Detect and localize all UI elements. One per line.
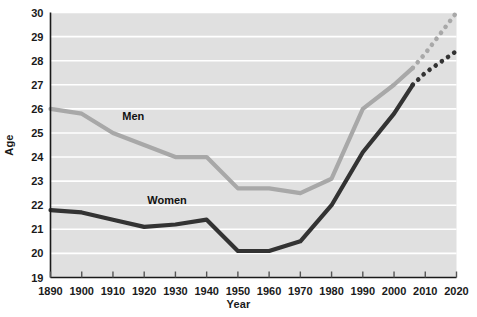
svg-text:1940: 1940 bbox=[194, 285, 218, 297]
svg-text:2010: 2010 bbox=[413, 285, 437, 297]
svg-text:24: 24 bbox=[31, 151, 44, 163]
svg-text:2000: 2000 bbox=[382, 285, 406, 297]
svg-text:28: 28 bbox=[31, 55, 43, 67]
svg-text:1950: 1950 bbox=[226, 285, 250, 297]
svg-text:1910: 1910 bbox=[101, 285, 125, 297]
svg-text:1900: 1900 bbox=[69, 285, 93, 297]
line-chart-figure: 192021222324252627282930 189019001910192… bbox=[0, 0, 477, 317]
svg-text:1970: 1970 bbox=[288, 285, 312, 297]
y-axis-title: Age bbox=[3, 125, 15, 165]
x-axis-tick-labels: 1890190019101920193019401950196019701980… bbox=[38, 285, 468, 297]
svg-text:21: 21 bbox=[31, 223, 43, 235]
svg-text:26: 26 bbox=[31, 103, 43, 115]
svg-text:1920: 1920 bbox=[132, 285, 156, 297]
svg-text:22: 22 bbox=[31, 199, 43, 211]
svg-text:25: 25 bbox=[31, 127, 43, 139]
svg-text:1890: 1890 bbox=[38, 285, 62, 297]
svg-text:1990: 1990 bbox=[351, 285, 375, 297]
svg-text:2020: 2020 bbox=[444, 285, 468, 297]
svg-text:27: 27 bbox=[31, 79, 43, 91]
svg-text:Men: Men bbox=[122, 110, 144, 122]
svg-text:29: 29 bbox=[31, 31, 43, 43]
plot-background bbox=[51, 13, 457, 278]
chart-canvas: 192021222324252627282930 189019001910192… bbox=[0, 0, 477, 317]
svg-text:19: 19 bbox=[31, 272, 43, 284]
svg-text:1930: 1930 bbox=[163, 285, 187, 297]
svg-text:1980: 1980 bbox=[319, 285, 343, 297]
svg-text:Women: Women bbox=[147, 194, 187, 206]
svg-text:30: 30 bbox=[31, 7, 43, 19]
svg-text:1960: 1960 bbox=[257, 285, 281, 297]
svg-text:23: 23 bbox=[31, 175, 43, 187]
svg-text:20: 20 bbox=[31, 247, 43, 259]
x-axis-title: Year bbox=[0, 298, 477, 310]
y-axis-tick-labels: 192021222324252627282930 bbox=[31, 7, 44, 284]
